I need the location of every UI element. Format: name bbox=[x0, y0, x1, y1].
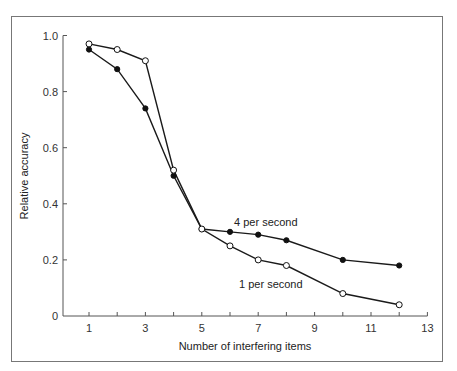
x-axis-title: Number of interfering items bbox=[179, 340, 312, 352]
x-tick-label: 1 bbox=[86, 322, 92, 334]
series-label-4-per-second: 4 per second bbox=[234, 216, 298, 228]
data-point bbox=[340, 257, 345, 262]
x-tick-label: 5 bbox=[199, 322, 205, 334]
line-chart: 00.20.40.60.81.0135791113 4 per second 1… bbox=[0, 0, 457, 371]
data-point bbox=[115, 67, 120, 72]
y-tick-label: 1.0 bbox=[43, 30, 58, 42]
series-line-1-per-second bbox=[89, 44, 399, 305]
x-tick-label: 9 bbox=[312, 322, 318, 334]
data-point bbox=[340, 291, 346, 297]
data-point bbox=[171, 167, 177, 173]
series-label-1-per-second: 1 per second bbox=[239, 278, 303, 290]
data-point bbox=[143, 106, 148, 111]
data-point bbox=[256, 232, 261, 237]
data-point bbox=[227, 229, 232, 234]
data-point bbox=[199, 226, 205, 232]
data-point bbox=[396, 302, 402, 308]
x-tick-label: 7 bbox=[255, 322, 261, 334]
y-tick-label: 0.4 bbox=[43, 198, 58, 210]
y-tick-label: 0.2 bbox=[43, 254, 58, 266]
data-point bbox=[86, 47, 91, 52]
y-tick-label: 0 bbox=[52, 310, 58, 322]
series-group bbox=[86, 41, 402, 308]
y-axis-title: Relative accuracy bbox=[18, 132, 30, 219]
data-point bbox=[86, 41, 92, 47]
y-tick-label: 0.8 bbox=[43, 86, 58, 98]
data-point bbox=[255, 257, 261, 263]
y-tick-label: 0.6 bbox=[43, 142, 58, 154]
data-point bbox=[142, 58, 148, 64]
x-tick-label: 11 bbox=[365, 322, 376, 334]
x-tick-label: 3 bbox=[142, 322, 148, 334]
data-point bbox=[397, 263, 402, 268]
data-point bbox=[284, 238, 289, 243]
data-point bbox=[171, 173, 176, 178]
data-point bbox=[227, 243, 233, 249]
x-tick-label: 13 bbox=[421, 322, 433, 334]
series-line-4-per-second bbox=[89, 50, 399, 266]
data-point bbox=[114, 47, 120, 53]
data-point bbox=[283, 263, 289, 269]
